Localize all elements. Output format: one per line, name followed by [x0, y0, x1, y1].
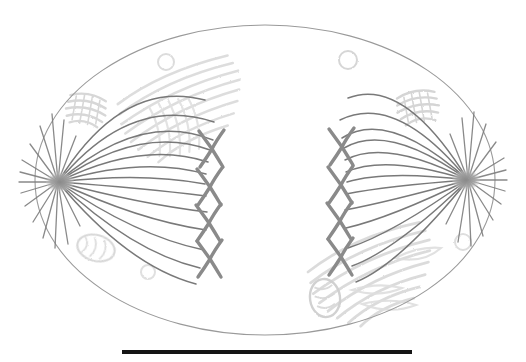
scale-bar: [122, 350, 412, 354]
cell-diagram-canvas: [0, 0, 526, 362]
cell-diagram-figure: Cell in anaphase of mitosis: [0, 0, 526, 362]
centrosome-left: [46, 172, 74, 192]
centrosome-right: [452, 170, 480, 190]
